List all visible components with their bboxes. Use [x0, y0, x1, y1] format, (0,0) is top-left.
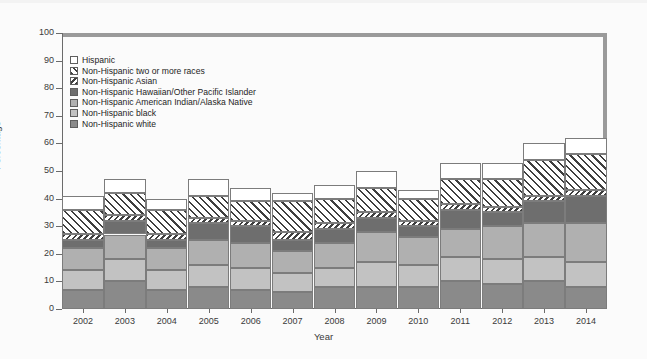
bar-segment[interactable]: [146, 234, 187, 240]
bar-segment[interactable]: [188, 196, 229, 218]
bar-segment[interactable]: [146, 199, 187, 210]
bar-segment[interactable]: [272, 292, 313, 309]
bar-segment[interactable]: [314, 185, 355, 199]
bar-segment[interactable]: [272, 193, 313, 201]
bar-segment[interactable]: [356, 212, 397, 218]
bar-segment[interactable]: [272, 201, 313, 231]
bar-segment[interactable]: [440, 179, 481, 204]
bar-segment[interactable]: [356, 232, 397, 262]
bar-segment[interactable]: [314, 287, 355, 309]
bar-segment[interactable]: [523, 281, 564, 309]
bar-segment[interactable]: [314, 229, 355, 243]
bar-segment[interactable]: [314, 268, 355, 287]
bar-segment[interactable]: [104, 215, 145, 221]
bar-segment[interactable]: [314, 199, 355, 224]
bar-segment[interactable]: [272, 251, 313, 273]
bar-segment[interactable]: [272, 273, 313, 292]
bar-segment[interactable]: [104, 235, 145, 260]
bar-segment[interactable]: [356, 287, 397, 309]
bar-segment[interactable]: [482, 163, 523, 180]
legend-item[interactable]: Hispanic: [70, 55, 256, 66]
legend-item[interactable]: Non-Hispanic Asian: [70, 76, 256, 87]
bar-segment[interactable]: [482, 226, 523, 259]
bar-segment[interactable]: [565, 262, 606, 287]
bar-segment[interactable]: [230, 290, 271, 309]
bar-segment[interactable]: [398, 265, 439, 287]
bar-segment[interactable]: [440, 281, 481, 309]
bar-segment[interactable]: [356, 218, 397, 232]
bar-segment[interactable]: [482, 259, 523, 284]
bar-segment[interactable]: [62, 290, 103, 309]
bar-segment[interactable]: [523, 257, 564, 282]
bar-segment[interactable]: [62, 210, 103, 235]
bar-segment[interactable]: [62, 234, 103, 240]
bar-segment[interactable]: [440, 257, 481, 282]
bar-segment[interactable]: [62, 240, 103, 248]
bar-segment[interactable]: [565, 287, 606, 309]
bar-segment[interactable]: [230, 188, 271, 202]
bar-segment[interactable]: [440, 163, 481, 180]
bar-segment[interactable]: [272, 232, 313, 240]
bar-segment[interactable]: [523, 143, 564, 160]
bar-segment[interactable]: [62, 248, 103, 270]
bar-segment[interactable]: [188, 223, 229, 240]
bar-segment[interactable]: [314, 223, 355, 229]
bar-segment[interactable]: [398, 287, 439, 309]
bar-segment[interactable]: [230, 221, 271, 227]
bar-segment[interactable]: [230, 201, 271, 220]
bar-segment[interactable]: [482, 284, 523, 309]
bar-segment[interactable]: [62, 196, 103, 210]
bar-segment[interactable]: [398, 237, 439, 265]
bar-segment[interactable]: [146, 210, 187, 235]
bar-segment[interactable]: [104, 281, 145, 309]
legend-item[interactable]: Non-Hispanic white: [70, 119, 256, 130]
bar-segment[interactable]: [188, 287, 229, 309]
bar-segment[interactable]: [440, 204, 481, 210]
bar-segment[interactable]: [398, 221, 439, 227]
bar-segment[interactable]: [356, 171, 397, 188]
bar-segment[interactable]: [565, 223, 606, 262]
bar-segment[interactable]: [523, 196, 564, 202]
bar-segment[interactable]: [146, 240, 187, 248]
bar-segment[interactable]: [523, 160, 564, 196]
bar-segment[interactable]: [356, 188, 397, 213]
bar-segment[interactable]: [482, 179, 523, 207]
bar-segment[interactable]: [188, 240, 229, 265]
bar-segment[interactable]: [230, 226, 271, 243]
bar-segment[interactable]: [188, 265, 229, 287]
bar-segment[interactable]: [146, 270, 187, 289]
bar-segment[interactable]: [62, 270, 103, 289]
figure-top-edge: [0, 0, 647, 3]
bar-segment[interactable]: [523, 223, 564, 256]
bar-segment[interactable]: [188, 179, 229, 196]
bar-segment[interactable]: [398, 190, 439, 198]
legend-item[interactable]: Non-Hispanic two or more races: [70, 66, 256, 77]
bar-segment[interactable]: [104, 259, 145, 281]
legend-item[interactable]: Non-Hispanic Hawaiian/Other Pacific Isla…: [70, 87, 256, 98]
bar-segment[interactable]: [146, 248, 187, 270]
bar-segment[interactable]: [482, 212, 523, 226]
bar-segment[interactable]: [440, 229, 481, 257]
bar-segment[interactable]: [565, 138, 606, 155]
bar-segment[interactable]: [440, 210, 481, 229]
bar-segment[interactable]: [230, 268, 271, 290]
bar-segment[interactable]: [104, 179, 145, 193]
legend-item[interactable]: Non-Hispanic black: [70, 108, 256, 119]
legend-item[interactable]: Non-Hispanic American Indian/Alaska Nati…: [70, 97, 256, 108]
bar-segment[interactable]: [272, 240, 313, 251]
bar-segment[interactable]: [146, 290, 187, 309]
bar-segment[interactable]: [356, 262, 397, 287]
bar-segment[interactable]: [398, 199, 439, 221]
bar-segment[interactable]: [104, 221, 145, 235]
x-axis-tick-label: 2008: [314, 316, 356, 326]
bar-segment[interactable]: [565, 190, 606, 196]
bar-segment[interactable]: [398, 226, 439, 237]
bar-segment[interactable]: [104, 193, 145, 215]
bar-segment[interactable]: [565, 154, 606, 190]
bar-segment[interactable]: [230, 243, 271, 268]
bar-segment[interactable]: [314, 243, 355, 268]
bar-segment[interactable]: [482, 207, 523, 213]
bar-segment[interactable]: [523, 201, 564, 223]
bar-segment[interactable]: [188, 218, 229, 224]
bar-segment[interactable]: [565, 196, 606, 224]
